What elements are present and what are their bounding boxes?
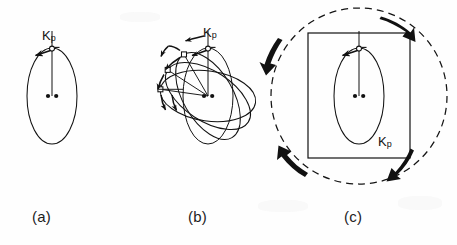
panel-a-focus-dot-right <box>54 94 58 98</box>
panel-b-apsis-marker-1 <box>182 52 187 57</box>
kp-c-main: K <box>378 134 387 149</box>
panel-b-focus-dot-right <box>210 94 214 98</box>
kp-b-main: K <box>203 25 212 40</box>
panel-b-rotation-arrow-top <box>186 36 205 41</box>
panel-b-rotation-bracket-1 <box>169 46 181 51</box>
panel-a-group <box>27 31 77 144</box>
kp-b-sub: p <box>212 30 217 40</box>
kp-a-sub: p <box>51 33 56 43</box>
panel-c-arrow-bottom-left <box>277 146 308 178</box>
kp-a-main: K <box>42 28 51 43</box>
panel-b-apsis-radius-3 <box>160 89 208 96</box>
panel-b-focus-dot-left <box>202 94 206 98</box>
panel-caption-c: (c) <box>344 208 362 225</box>
panel-c-arrow-top-left <box>260 38 283 76</box>
panel-b-rotation-arrow-5 <box>172 95 177 111</box>
figure-canvas: Kp Kp Kp (a) (b) (c) <box>0 0 457 245</box>
kp-c-sub: p <box>387 139 392 149</box>
panel-c-kp-label: Kp <box>378 134 392 149</box>
panel-caption-a: (a) <box>32 208 51 225</box>
panel-b-apsis-radius-2 <box>168 70 208 96</box>
panel-b-rotation-arrow-1 <box>161 46 169 57</box>
panel-a-focus-dot-left <box>46 94 50 98</box>
panel-b-apsis-radius-1 <box>184 54 208 96</box>
panel-c-focus-dot-right <box>361 94 365 98</box>
panel-b-kp-label: Kp <box>203 25 217 40</box>
diagram-svg <box>0 0 457 245</box>
panel-c-focus-dot-left <box>353 94 357 98</box>
panel-c-curved-arrows <box>260 17 416 182</box>
panel-c-group <box>260 8 448 184</box>
panel-a-kp-label: Kp <box>42 28 56 43</box>
panel-b-group <box>154 31 262 150</box>
panel-caption-b: (b) <box>188 208 207 225</box>
